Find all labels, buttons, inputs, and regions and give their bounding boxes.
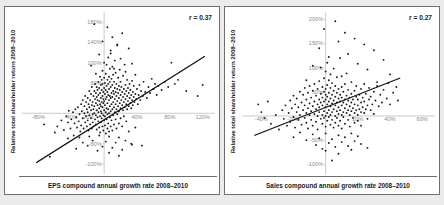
plot-area-sales: r = 0.27 -40%-20%20%40%60%200%150%100%50… [240, 10, 437, 176]
chart-panel-sales: Relative total shareholder return 2008–2… [224, 6, 440, 195]
y-axis-title-text: Relative total shareholder return 2008–2… [10, 30, 17, 154]
svg-text:140%: 140% [87, 39, 101, 45]
svg-text:200%: 200% [309, 16, 323, 22]
svg-text:120%: 120% [196, 114, 210, 120]
svg-text:80%: 80% [164, 114, 175, 120]
svg-text:40%: 40% [384, 116, 395, 122]
y-axis-title-sales: Relative total shareholder return 2008–2… [226, 7, 240, 176]
svg-text:40%: 40% [131, 114, 142, 120]
chart-panel-eps: Relative total shareholder return 2008–2… [4, 6, 220, 195]
svg-text:-100%: -100% [307, 161, 323, 167]
plot-area-eps: r = 0.37 -80%-40%-20%40%80%120%180%140%1… [20, 10, 217, 176]
scatter-plot-sales: -40%-20%20%40%60%200%150%100%50%-50%-100… [240, 10, 437, 176]
svg-text:-60%: -60% [89, 141, 102, 147]
svg-text:-40%: -40% [255, 116, 268, 122]
x-axis-title-text: EPS compound annual growth rate 2008–201… [48, 182, 188, 189]
svg-text:150%: 150% [309, 40, 323, 46]
svg-text:-100%: -100% [85, 161, 101, 167]
x-axis-title-sales: Sales compound annual growth rate 2008–2… [239, 176, 437, 193]
x-axis-title-text: Sales compound annual growth rate 2008–2… [266, 182, 410, 189]
y-axis-title-text: Relative total shareholder return 2008–2… [230, 30, 237, 154]
svg-text:-80%: -80% [32, 114, 45, 120]
figure-container: Relative total shareholder return 2008–2… [0, 0, 444, 205]
x-axis-title-eps: EPS compound annual growth rate 2008–201… [19, 176, 217, 193]
scatter-plot-eps: -80%-40%-20%40%80%120%180%140%100%60%-60… [20, 10, 217, 176]
svg-text:60%: 60% [417, 116, 428, 122]
svg-text:-50%: -50% [310, 137, 323, 143]
y-axis-title-eps: Relative total shareholder return 2008–2… [6, 7, 20, 176]
svg-text:100%: 100% [87, 60, 101, 66]
